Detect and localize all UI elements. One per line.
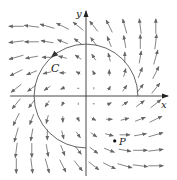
- field-arrow-icon: [9, 41, 24, 43]
- field-arrow-icon: [11, 84, 21, 92]
- field-arrow-icon: [150, 116, 162, 122]
- field-arrow-icon: [123, 85, 127, 91]
- field-arrow-icon: [46, 115, 48, 123]
- field-arrow-icon: [148, 149, 163, 151]
- vector-field-diagram: x y C P: [0, 0, 177, 180]
- field-arrow-icon: [93, 71, 95, 75]
- field-arrow-icon: [123, 19, 127, 33]
- field-arrow-icon: [77, 117, 79, 121]
- field-arrow-icon: [153, 67, 159, 79]
- field-arrow-icon: [76, 132, 80, 138]
- field-arrow-icon: [107, 103, 111, 105]
- field-arrow-icon: [154, 50, 158, 64]
- field-arrow-icon: [152, 83, 160, 93]
- field-arrow-icon: [149, 133, 163, 137]
- curve-direction-arrow-icon: [52, 53, 58, 57]
- field-arrow-icon: [41, 41, 53, 43]
- field-arrow-icon: [24, 25, 39, 27]
- field-arrow-icon: [90, 147, 98, 153]
- field-arrow-icon: [134, 134, 146, 136]
- field-arrow-icon: [58, 40, 68, 44]
- field-arrow-icon: [135, 117, 145, 121]
- field-arrow-icon: [31, 158, 33, 173]
- field-arrow-icon: [139, 19, 141, 34]
- field-arrow-icon: [90, 21, 98, 31]
- point-p: [113, 139, 116, 142]
- field-arrow-icon: [103, 163, 115, 169]
- field-arrow-icon: [75, 55, 81, 59]
- field-arrow-icon: [74, 161, 82, 171]
- field-arrow-icon: [57, 23, 69, 29]
- field-arrow-icon: [89, 162, 99, 170]
- field-arrow-icon: [10, 70, 22, 76]
- field-arrow-icon: [14, 128, 18, 142]
- field-arrow-icon: [13, 113, 19, 125]
- field-arrow-icon: [59, 56, 67, 58]
- point-label: P: [118, 136, 126, 147]
- field-arrow-icon: [60, 160, 66, 172]
- field-arrow-icon: [26, 56, 38, 58]
- field-arrow-icon: [108, 86, 110, 90]
- curve-label: C: [51, 62, 60, 75]
- field-arrow-icon: [9, 55, 23, 59]
- field-arrow-icon: [106, 20, 112, 32]
- field-arrow-icon: [44, 86, 50, 90]
- field-arrow-icon: [124, 69, 126, 77]
- field-arrow-icon: [91, 133, 97, 137]
- field-arrow-icon: [45, 101, 49, 107]
- field-arrow-icon: [108, 53, 110, 61]
- field-arrow-icon: [62, 131, 64, 139]
- field-arrow-icon: [73, 22, 83, 30]
- field-arrow-icon: [31, 129, 33, 141]
- field-arrow-icon: [61, 87, 65, 89]
- field-arrow-icon: [122, 102, 128, 106]
- field-arrow-icon: [136, 101, 144, 107]
- field-arrow-icon: [138, 68, 142, 78]
- field-arrow-icon: [104, 148, 114, 152]
- field-arrow-icon: [45, 159, 49, 173]
- field-arrow-icon: [118, 164, 132, 168]
- field-arrow-icon: [15, 143, 17, 158]
- field-arrow-icon: [121, 118, 129, 120]
- field-arrow-icon: [27, 71, 37, 75]
- x-axis-label: x: [161, 99, 167, 110]
- field-arrow-icon: [30, 114, 34, 124]
- field-arrow-icon: [139, 51, 141, 63]
- field-arrow-icon: [62, 102, 64, 106]
- field-arrow-icon: [61, 145, 65, 155]
- field-arrow-icon: [12, 99, 20, 109]
- field-arrow-icon: [119, 149, 131, 151]
- field-arrow-icon: [46, 144, 48, 156]
- field-arrow-icon: [92, 54, 96, 60]
- y-axis-label: y: [75, 8, 82, 19]
- field-arrow-icon: [105, 134, 113, 136]
- field-arrow-icon: [107, 37, 111, 47]
- field-arrow-icon: [40, 24, 54, 28]
- field-arrow-icon: [133, 165, 148, 167]
- field-arrow-icon: [151, 100, 161, 108]
- field-arrow-icon: [155, 34, 157, 49]
- field-arrow-icon: [92, 118, 96, 120]
- field-arrow-icon: [124, 36, 126, 48]
- field-arrow-icon: [76, 72, 80, 74]
